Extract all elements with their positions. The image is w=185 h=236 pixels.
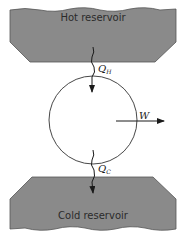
heat-out-label: QC xyxy=(98,163,111,175)
hot-reservoir-label: Hot reservoir xyxy=(60,12,126,23)
heat-engine-diagram: Hot reservoir Cold reservoir QH QC W xyxy=(0,0,185,236)
cold-reservoir-shape xyxy=(10,177,176,230)
cold-reservoir-label: Cold reservoir xyxy=(58,210,129,221)
heat-in-label: QH xyxy=(98,63,112,75)
work-label: W xyxy=(139,110,150,121)
cold-reservoir: Cold reservoir xyxy=(10,177,176,230)
